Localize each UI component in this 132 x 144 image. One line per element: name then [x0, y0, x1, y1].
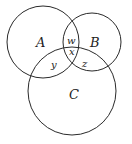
venn-diagram: A B C w x y z [0, 0, 132, 144]
label-a: A [35, 35, 45, 50]
label-z: z [81, 58, 88, 69]
label-x: x [69, 46, 75, 57]
label-y: y [50, 59, 57, 70]
label-c: C [69, 87, 79, 102]
label-b: B [89, 35, 100, 50]
label-w: w [67, 35, 76, 46]
